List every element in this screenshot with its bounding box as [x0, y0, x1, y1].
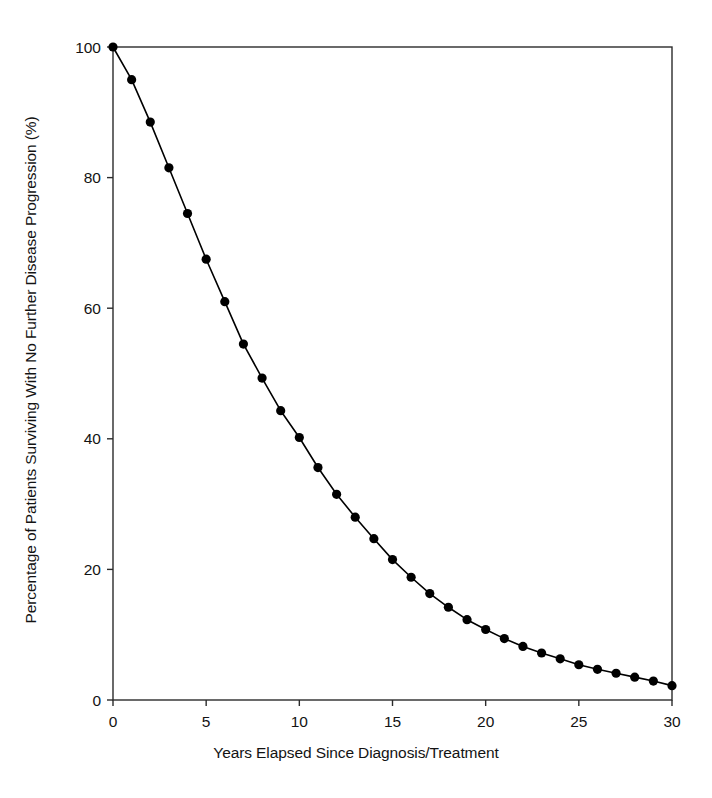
data-point-marker: [146, 118, 155, 127]
x-axis-tick-label: 15: [384, 713, 401, 730]
data-point-marker: [202, 255, 211, 264]
data-point-marker: [444, 603, 453, 612]
data-point-marker: [183, 209, 192, 218]
series-line: [113, 47, 672, 686]
data-point-marker: [630, 673, 639, 682]
x-axis-label: Years Elapsed Since Diagnosis/Treatment: [0, 744, 712, 762]
data-point-marker: [220, 297, 229, 306]
x-axis-tick-label: 30: [663, 713, 681, 730]
y-axis-tick-label: 80: [84, 169, 102, 186]
data-point-marker: [537, 648, 546, 657]
data-point-marker: [351, 513, 360, 522]
y-axis-tick-label: 0: [92, 692, 101, 709]
data-point-marker: [369, 534, 378, 543]
data-point-marker: [407, 573, 416, 582]
data-point-marker: [239, 340, 248, 349]
data-point-marker: [257, 373, 266, 382]
x-axis-tick-label: 5: [202, 713, 211, 730]
data-point-marker: [388, 555, 397, 564]
data-point-marker: [276, 406, 285, 415]
data-point-marker: [574, 660, 583, 669]
data-point-marker: [667, 681, 676, 690]
data-point-marker: [462, 615, 471, 624]
x-axis-tick-label: 0: [109, 713, 118, 730]
data-point-marker: [481, 625, 490, 634]
y-axis-tick-label: 60: [84, 300, 102, 317]
data-point-marker: [127, 75, 136, 84]
x-axis-tick-label: 20: [477, 713, 495, 730]
data-point-marker: [500, 634, 509, 643]
y-axis-tick-label: 40: [84, 430, 102, 447]
x-axis-tick-label: 25: [570, 713, 587, 730]
data-point-marker: [295, 433, 304, 442]
data-point-marker: [593, 665, 602, 674]
data-point-marker: [164, 163, 173, 172]
y-axis-tick-label: 20: [84, 561, 102, 578]
y-axis-tick-label: 100: [75, 39, 101, 56]
data-point-marker: [649, 676, 658, 685]
data-point-marker: [313, 463, 322, 472]
figure-canvas: Percentage of Patients Surviving With No…: [0, 0, 712, 798]
data-point-marker: [518, 642, 527, 651]
x-axis-tick-label: 10: [291, 713, 309, 730]
data-point-marker: [425, 589, 434, 598]
data-point-marker: [332, 490, 341, 499]
data-point-marker: [612, 669, 621, 678]
data-point-marker: [108, 42, 117, 51]
data-point-marker: [556, 654, 565, 663]
plot-frame: [113, 47, 672, 700]
chart-plot-area: 020406080100051015202530: [0, 0, 712, 740]
